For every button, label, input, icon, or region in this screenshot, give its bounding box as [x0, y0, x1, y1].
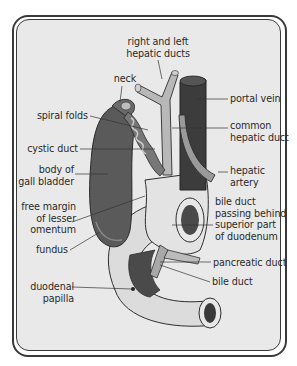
label-duodenal-papilla: duodenal papilla: [20, 281, 74, 304]
leader-right-and-left-hepatic-ducts: [158, 60, 162, 79]
label-body-of-gall-bladder: body of gall bladder: [16, 164, 74, 187]
label-fundus: fundus: [28, 244, 68, 256]
label-common-hepatic-duct: common hepatic duct: [230, 120, 292, 143]
label-right-and-left-hepatic-ducts: right and left hepatic ducts: [118, 36, 198, 59]
label-neck: neck: [113, 73, 137, 85]
label-spiral-folds: spiral folds: [20, 110, 88, 122]
label-bile-duct: bile duct: [212, 276, 268, 288]
label-pancreatic-duct: pancreatic duct: [213, 257, 295, 269]
label-free-margin-of-lesser-omentum: free margin of lesser omentum: [16, 201, 76, 236]
label-cystic-duct: cystic duct: [20, 143, 78, 155]
label-bile-duct-passing-behind-superior-part-of-duodenum: bile duct passing behind superior part o…: [215, 196, 295, 242]
label-hepatic-artery: hepatic artery: [230, 165, 280, 188]
anatomy-diagram: right and left hepatic ductsneckportal v…: [0, 0, 297, 366]
label-portal-vein: portal vein: [230, 93, 290, 105]
leader-bile-duct: [160, 265, 210, 282]
